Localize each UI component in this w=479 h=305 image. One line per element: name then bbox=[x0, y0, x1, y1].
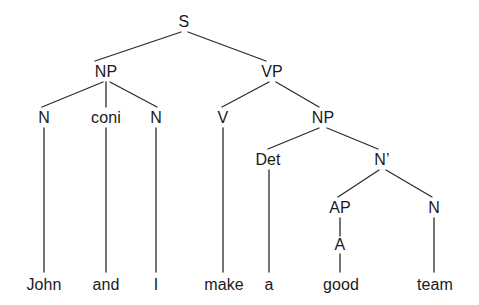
tree-node-n2: N bbox=[150, 110, 162, 126]
tree-leaf-a: a bbox=[265, 277, 274, 293]
tree-leaf-make: make bbox=[204, 277, 244, 293]
tree-edge-s-to-np1 bbox=[95, 32, 181, 61]
tree-edge-nbar-to-ap bbox=[338, 170, 379, 197]
tree-leaf-and: and bbox=[93, 277, 120, 293]
tree-edge-nbar-to-n3 bbox=[386, 170, 432, 197]
tree-edge-np2-to-nbar bbox=[327, 128, 378, 149]
tree-leaf-team: team bbox=[417, 277, 453, 293]
tree-edges-layer bbox=[0, 0, 479, 305]
tree-node-np1: NP bbox=[95, 64, 117, 80]
tree-node-vp: VP bbox=[261, 64, 283, 80]
tree-node-np2: NP bbox=[312, 110, 334, 126]
tree-leaf-good: good bbox=[323, 277, 359, 293]
tree-node-n3: N bbox=[428, 200, 440, 216]
tree-edge-s-to-vp bbox=[188, 32, 266, 61]
tree-edge-np1-to-n2 bbox=[110, 82, 157, 107]
tree-node-a: A bbox=[335, 237, 346, 253]
tree-leaf-john: John bbox=[26, 277, 61, 293]
tree-edge-vp-to-v bbox=[222, 82, 269, 107]
tree-edge-vp-to-np2 bbox=[276, 82, 319, 107]
tree-node-ap: AP bbox=[329, 200, 351, 216]
tree-node-nbar: N’ bbox=[374, 152, 389, 168]
tree-node-v: V bbox=[218, 110, 229, 126]
tree-node-n1: N bbox=[38, 110, 50, 126]
tree-edge-np2-to-det bbox=[268, 128, 319, 149]
tree-edge-np1-to-n1 bbox=[42, 82, 103, 107]
tree-node-conj: coni bbox=[91, 110, 121, 126]
tree-node-det: Det bbox=[255, 152, 280, 168]
tree-leaf-i: I bbox=[154, 277, 159, 293]
tree-node-s: S bbox=[179, 14, 190, 30]
syntax-tree-diagram: SNPVPNconiNVNPDetN’APNA JohnandImakeagoo… bbox=[0, 0, 479, 305]
